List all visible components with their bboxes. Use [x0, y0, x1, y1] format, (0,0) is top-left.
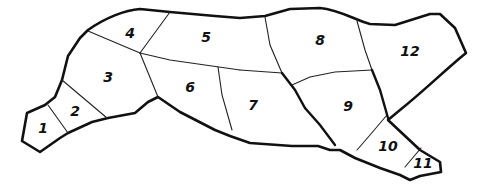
meat-cuts-diagram: 1 2 3 4 5 6 7 8 9 10 11 12	[0, 0, 480, 187]
region-label-12: 12	[400, 43, 419, 59]
region-label-6: 6	[185, 79, 195, 95]
region-label-5: 5	[201, 29, 211, 45]
region-label-7: 7	[248, 97, 258, 113]
region-label-1: 1	[38, 120, 48, 136]
region-label-11: 11	[413, 155, 432, 171]
region-label-10: 10	[378, 138, 397, 154]
region-label-9: 9	[343, 98, 353, 114]
region-label-2: 2	[70, 103, 80, 119]
region-label-4: 4	[125, 25, 135, 41]
body-outline	[22, 8, 466, 180]
region-label-3: 3	[103, 69, 113, 85]
animal-outline-drawing	[0, 0, 480, 187]
region-label-8: 8	[315, 32, 325, 48]
